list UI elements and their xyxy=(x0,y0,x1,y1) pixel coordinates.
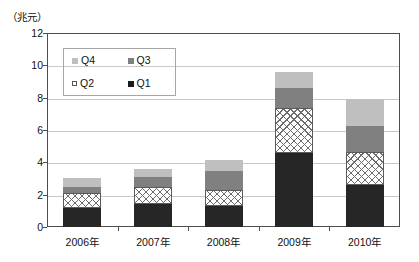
x-axis: 2006年2007年2008年2009年2010年 xyxy=(47,227,400,253)
legend-swatch-q4-icon xyxy=(72,58,78,64)
y-tick-label: 8 xyxy=(5,93,43,103)
x-tick-mark xyxy=(259,227,260,231)
legend-label-q2: Q2 xyxy=(80,78,94,89)
y-axis-unit-label: （兆元） xyxy=(7,9,47,24)
x-tick-label: 2006年 xyxy=(66,236,99,248)
stacked-bar-chart: （兆元） 024681012 2006年2007年2008年2009年2010年… xyxy=(0,0,419,262)
y-tick-label: 6 xyxy=(5,125,43,135)
legend-item-q4[interactable]: Q4 xyxy=(64,55,120,66)
x-tick-mark xyxy=(329,227,330,231)
legend-item-q2[interactable]: Q2 xyxy=(64,78,120,89)
gridline xyxy=(48,99,399,100)
gridline xyxy=(48,163,399,164)
legend-label-q1: Q1 xyxy=(137,78,151,89)
gridline xyxy=(48,131,399,132)
x-tick-label: 2009年 xyxy=(277,236,310,248)
y-tick-label: 0 xyxy=(5,222,43,232)
x-tick-label: 2007年 xyxy=(136,236,169,248)
y-tick-label: 12 xyxy=(5,28,43,38)
x-tick-mark xyxy=(118,227,119,231)
y-tick-label: 10 xyxy=(5,60,43,70)
gridline xyxy=(48,196,399,197)
y-axis: 024681012 xyxy=(0,33,43,227)
legend-item-q1[interactable]: Q1 xyxy=(120,78,176,89)
legend-swatch-q2-icon xyxy=(72,81,77,86)
x-tick-mark xyxy=(188,227,189,231)
chart-legend: Q4 Q3 Q2 Q1 xyxy=(63,48,176,96)
x-tick-label: 2010年 xyxy=(348,236,381,248)
legend-label-q3: Q3 xyxy=(137,55,151,66)
y-tick-label: 2 xyxy=(5,190,43,200)
x-tick-label: 2008年 xyxy=(207,236,240,248)
legend-swatch-q1-icon xyxy=(128,81,134,87)
legend-item-q3[interactable]: Q3 xyxy=(120,55,176,66)
legend-label-q4: Q4 xyxy=(81,55,95,66)
y-tick-label: 4 xyxy=(5,157,43,167)
legend-swatch-q3-icon xyxy=(128,58,134,64)
